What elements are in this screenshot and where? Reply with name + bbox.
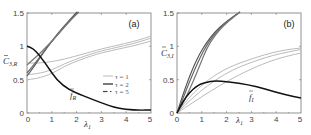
panel-b-ytick-0-5: 0.5 bbox=[163, 76, 175, 85]
panel-a-xtick-1: 1 bbox=[50, 115, 55, 124]
panel-a-xlabel: λ1 bbox=[83, 119, 91, 130]
panel-b-ytick-1: 1 bbox=[170, 42, 175, 51]
panel-a-xtick-4: 4 bbox=[124, 115, 129, 124]
panel-b-xtick-4: 4 bbox=[274, 115, 279, 124]
panel-a-ytick-1-5: 1.5 bbox=[13, 9, 25, 18]
figure: 0 0.5 1 1.5 0 1 2 3 4 5 λ1 C3,R (a) fR bbox=[0, 0, 311, 135]
panel-a-xtick-5: 5 bbox=[148, 115, 153, 124]
panel-b-xtick-1: 1 bbox=[200, 115, 205, 124]
panel-b-ytick-1-5: 1.5 bbox=[163, 9, 175, 18]
panel-a-xtick-2: 2 bbox=[74, 115, 79, 124]
panel-b-curve-fI bbox=[177, 81, 301, 113]
panel-a-tag: (a) bbox=[129, 19, 140, 29]
panel-a-curve-fR bbox=[27, 46, 151, 110]
panel-a-xtick-3: 3 bbox=[99, 115, 104, 124]
panel-b-xtick-5: 5 bbox=[298, 115, 303, 124]
panel-b-xlabel: λ1 bbox=[235, 115, 243, 126]
panel-a-ytick-0-5: 0.5 bbox=[13, 76, 25, 85]
panel-b-annotation-fI: fI bbox=[249, 92, 255, 103]
panel-a-ytick-0: 0 bbox=[20, 109, 25, 118]
panel-b-xtick-0: 0 bbox=[175, 115, 180, 124]
panel-a-curve-slow-c bbox=[27, 41, 151, 80]
panel-a-ytick-1: 1 bbox=[20, 42, 25, 51]
panel-b: 0 0.5 1 1.5 0 1 2 3 4 5 λ1 C3,I (b) fI bbox=[161, 9, 303, 126]
panel-a-xtick-0: 0 bbox=[26, 115, 31, 124]
legend-tau-1: τ = 1 bbox=[115, 73, 129, 81]
svg-text:C3,R: C3,R bbox=[3, 56, 18, 67]
panel-b-tag: (b) bbox=[284, 19, 295, 29]
panel-b-xtick-2: 2 bbox=[224, 115, 229, 124]
panel-a: 0 0.5 1 1.5 0 1 2 3 4 5 λ1 C3,R (a) fR bbox=[3, 9, 153, 130]
legend-tau-5: τ = 5 bbox=[115, 88, 129, 96]
panel-a-ylabel: C3,R bbox=[3, 56, 18, 68]
panel-b-curve-slow-b bbox=[177, 50, 301, 114]
panel-a-legend: τ = 1 τ = 2 τ = 5 bbox=[103, 73, 129, 97]
panel-b-xtick-3: 3 bbox=[249, 115, 254, 124]
